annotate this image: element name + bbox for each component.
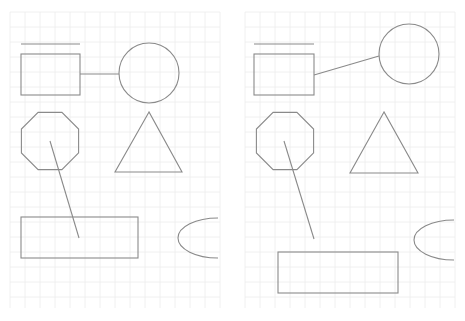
left-square[interactable]	[21, 54, 80, 95]
left-grid	[10, 12, 220, 308]
right-circle[interactable]	[379, 24, 439, 84]
right-octagon-rect-connector[interactable]	[284, 141, 314, 239]
left-triangle[interactable]	[115, 112, 182, 172]
diagram-svg	[0, 0, 465, 321]
right-ellipse-arc[interactable]	[414, 220, 454, 260]
diagram-canvas	[0, 0, 465, 321]
left-circle[interactable]	[119, 43, 179, 103]
right-panel	[245, 12, 455, 308]
left-panel	[10, 12, 220, 308]
right-triangle[interactable]	[350, 112, 418, 173]
right-grid	[245, 12, 455, 308]
left-octagon-rect-connector[interactable]	[50, 141, 79, 238]
